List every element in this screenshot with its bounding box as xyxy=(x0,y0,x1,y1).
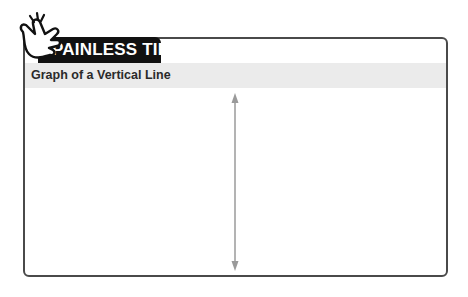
snapping-hand-icon xyxy=(13,10,69,68)
down-arrow-icon xyxy=(232,261,239,271)
vertical-line-graph xyxy=(226,92,244,272)
panel-title: Graph of a Vertical Line xyxy=(31,68,171,82)
up-arrow-icon xyxy=(232,93,239,103)
tip-badge-label: PAINLESS TIP xyxy=(52,40,169,60)
